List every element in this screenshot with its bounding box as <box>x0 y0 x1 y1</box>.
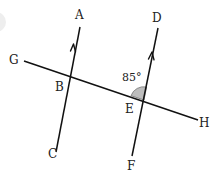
decorative-circle <box>0 12 6 32</box>
parallel-arrow-ac <box>71 44 76 52</box>
geometry-diagram: A D G B E H C F 85° <box>0 0 218 176</box>
label-a: A <box>74 8 84 22</box>
label-b: B <box>55 80 64 94</box>
label-g: G <box>9 53 19 67</box>
label-e: E <box>125 102 134 116</box>
label-f: F <box>127 159 135 173</box>
line-gh <box>24 61 198 120</box>
label-h: H <box>199 116 209 130</box>
angle-value-label: 85° <box>122 71 142 84</box>
label-d: D <box>152 11 162 25</box>
label-c: C <box>48 147 57 161</box>
